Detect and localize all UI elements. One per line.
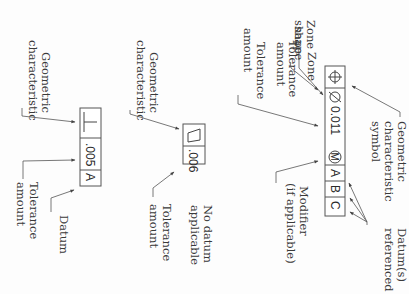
geometric-2-line1: Geometric [147,52,161,113]
flatness-tolerance-value: .006 [186,149,200,173]
tolerance-amount-2-line2: amount [147,204,161,248]
datums-line2: referenced [382,228,396,292]
zone-shape-line2: shape [292,26,306,61]
geometric-symbol-line3: symbol [369,121,383,163]
geometric-symbol-line1: Geometric [395,121,409,182]
geometric-2-line2: characteristic [134,40,148,121]
svg-text:M: M [329,153,340,161]
zone-shape-line1: Zone [305,52,319,81]
datum-a-3: A [83,173,97,181]
tolerance-value: 0.011 [328,106,342,135]
geometric-3-line1: Geometric [39,52,53,113]
datum-c: C [328,201,342,210]
tolerance-amount-1-line1: Tolerance [254,42,268,99]
tolerance-amount-2-leader [153,172,174,197]
geometric-symbol-line2: characteristic [382,121,396,202]
datum-3-label: Datum [57,215,71,254]
no-datum-line2: applicable [188,205,202,265]
frame-flatness-example: .006 [183,124,205,173]
frame-perpendicularity-example: .005 A [80,108,101,186]
modifier-line1: Modifier [297,186,311,236]
gdt-feature-control-frame-diagram: 0.011 M A B C Zone shape Tolerance amoun… [0,0,409,294]
tolerance-amount-1-leader [238,95,318,126]
tolerance-amount-3-line1: Tolerance [27,182,41,239]
datum-b: B [328,185,342,193]
modifier-leader [276,161,318,183]
datums-line1: Datum(s) [395,228,409,282]
modifier-line2: (if applicable) [284,183,298,264]
datum-3-leader [51,190,74,212]
tolerance-amount-1-line2: amount [241,28,255,72]
geometric-3-line2: characteristic [26,40,40,121]
no-datum-line1: No datum [201,205,215,263]
tolerance-amount-2-line1: Tolerance [160,204,174,261]
perpendicularity-tolerance-value: .005 [83,143,97,167]
tolerance-amount-3-leader [23,160,75,179]
datum-b-leader [350,198,367,222]
svg-text:amount: amount [274,42,288,86]
geometric-symbol-leader [352,86,400,117]
tolerance-amount-3-line2: amount [14,182,28,226]
frame-full-example: 0.011 M A B C [325,66,345,216]
datum-a: A [328,169,342,177]
